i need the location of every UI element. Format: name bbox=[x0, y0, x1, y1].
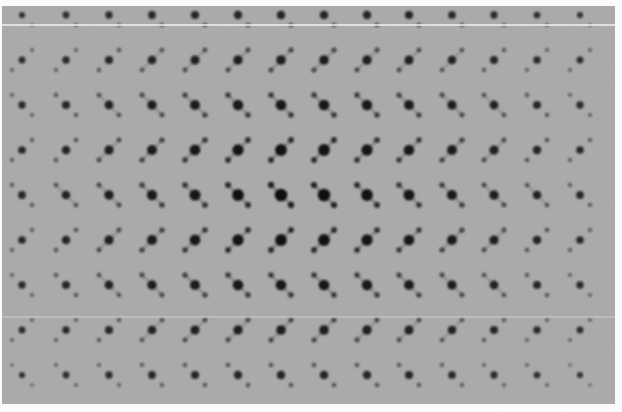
diffraction-spot bbox=[54, 273, 58, 277]
diffraction-spot bbox=[545, 138, 550, 143]
diffraction-spot bbox=[63, 12, 70, 19]
diffraction-spot bbox=[30, 203, 34, 207]
diffraction-spot bbox=[74, 48, 78, 52]
diffraction-spot bbox=[62, 326, 70, 334]
diffraction-spot bbox=[577, 372, 583, 378]
diffraction-spot bbox=[490, 326, 498, 334]
diffraction-spot bbox=[355, 363, 360, 368]
diffraction-spot bbox=[568, 68, 572, 72]
diffraction-spot bbox=[30, 318, 34, 322]
diffraction-spot bbox=[10, 338, 14, 342]
diffraction-spot bbox=[234, 371, 242, 379]
diffraction-spot bbox=[448, 11, 456, 19]
diffraction-spot bbox=[117, 318, 121, 322]
diffraction-spot bbox=[54, 93, 58, 97]
diffraction-spot bbox=[525, 338, 529, 342]
diffraction-spot bbox=[588, 228, 592, 232]
diffraction-spot bbox=[482, 363, 486, 367]
diffraction-spot bbox=[363, 11, 371, 19]
diffraction-spot bbox=[525, 248, 530, 253]
diffraction-spot bbox=[533, 326, 540, 333]
diffraction-spot bbox=[105, 371, 112, 378]
diffraction-spot bbox=[105, 56, 113, 64]
diffraction-spot bbox=[19, 57, 26, 64]
diffraction-spot bbox=[97, 363, 101, 367]
diffraction-spot bbox=[533, 236, 541, 244]
diffraction-spot bbox=[502, 318, 506, 322]
diffraction-spot bbox=[62, 146, 71, 155]
diffraction-spot bbox=[226, 363, 231, 368]
film-grain bbox=[2, 6, 615, 404]
diffraction-spot bbox=[62, 236, 71, 245]
diffraction-spot bbox=[30, 383, 34, 387]
diffraction-spot bbox=[568, 158, 572, 162]
diffraction-spot bbox=[533, 281, 541, 289]
diffraction-spot bbox=[105, 326, 113, 334]
diffraction-spot bbox=[320, 371, 329, 380]
diffraction-spot bbox=[191, 371, 199, 379]
diffraction-spot bbox=[269, 363, 274, 368]
diffraction-spot bbox=[30, 48, 34, 52]
diffraction-spot bbox=[10, 93, 14, 97]
diffraction-spot bbox=[54, 68, 58, 72]
diffraction-spot bbox=[405, 371, 413, 379]
diffraction-spot bbox=[568, 93, 572, 97]
diffraction-spot bbox=[502, 383, 506, 387]
diffraction-spot bbox=[234, 11, 242, 19]
diffraction-spot bbox=[10, 183, 14, 187]
diffraction-spot bbox=[576, 146, 584, 154]
diffraction-spot bbox=[545, 383, 549, 387]
diffraction-spot bbox=[18, 191, 26, 199]
diffraction-spot bbox=[19, 12, 25, 18]
diffraction-spot bbox=[74, 318, 78, 322]
diffraction-spot bbox=[246, 383, 251, 388]
diffraction-spot bbox=[576, 236, 584, 244]
diffraction-spot bbox=[375, 383, 380, 388]
diffraction-spot bbox=[30, 293, 34, 297]
diffraction-spot bbox=[525, 273, 529, 277]
diffraction-spot bbox=[545, 293, 549, 297]
diffraction-spot bbox=[405, 11, 413, 19]
diffraction-spot bbox=[277, 11, 286, 20]
diffraction-spot bbox=[533, 146, 541, 154]
diffraction-spot bbox=[30, 113, 34, 117]
diffraction-spot bbox=[117, 48, 121, 52]
diffraction-spot bbox=[482, 338, 486, 342]
diffraction-spot bbox=[440, 363, 444, 367]
diffraction-spot bbox=[54, 363, 58, 367]
diffraction-spot bbox=[191, 11, 199, 19]
diffraction-spot bbox=[18, 281, 25, 288]
diffraction-spot bbox=[588, 203, 592, 207]
diffraction-spot bbox=[54, 338, 58, 342]
diffraction-spot bbox=[588, 293, 592, 297]
diffraction-spot bbox=[568, 363, 572, 367]
diffraction-pattern-photo bbox=[0, 0, 622, 412]
diffraction-spot bbox=[30, 138, 34, 142]
diffraction-spot bbox=[490, 371, 497, 378]
diffraction-spot bbox=[533, 56, 540, 63]
diffraction-spot bbox=[588, 138, 592, 142]
diffraction-spot bbox=[97, 338, 101, 342]
diffraction-spot bbox=[525, 93, 529, 97]
diffraction-spot bbox=[576, 101, 583, 108]
diffraction-spot bbox=[62, 281, 70, 289]
diffraction-spot bbox=[490, 11, 497, 18]
diffraction-spot bbox=[62, 101, 70, 109]
diffraction-spot bbox=[588, 318, 592, 322]
diffraction-spot bbox=[18, 236, 26, 244]
diffraction-spot bbox=[534, 12, 541, 19]
diffraction-spot bbox=[62, 56, 70, 64]
diffraction-spot bbox=[312, 363, 317, 368]
diffraction-spot bbox=[160, 383, 164, 387]
diffraction-spot bbox=[576, 281, 583, 288]
diffraction-spot bbox=[525, 158, 530, 163]
diffraction-spot bbox=[183, 363, 187, 367]
diffraction-spot bbox=[568, 248, 572, 252]
diffraction-spot bbox=[97, 68, 101, 72]
diffraction-spot bbox=[577, 57, 584, 64]
diffraction-spot bbox=[568, 273, 572, 277]
diffraction-spot bbox=[588, 383, 592, 387]
diffraction-spot bbox=[10, 248, 14, 252]
diffraction-spot bbox=[397, 363, 401, 367]
diffraction-spot bbox=[117, 383, 121, 387]
